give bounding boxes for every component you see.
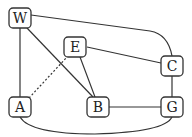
node-label: G <box>166 99 177 115</box>
node-C[interactable]: C <box>161 56 183 76</box>
node-label: A <box>14 99 26 115</box>
node-label: C <box>167 58 178 74</box>
node-label: B <box>93 99 103 115</box>
node-G[interactable]: G <box>161 97 183 117</box>
node-B[interactable]: B <box>87 97 109 117</box>
node-label: W <box>13 10 28 26</box>
edge-E-C <box>87 47 161 63</box>
graph-diagram: W E C A B G <box>0 0 192 137</box>
node-E[interactable]: E <box>64 37 86 57</box>
node-A[interactable]: A <box>9 97 31 117</box>
node-label: E <box>70 39 80 55</box>
node-W[interactable]: W <box>9 8 31 28</box>
edge-A-G <box>20 117 172 134</box>
